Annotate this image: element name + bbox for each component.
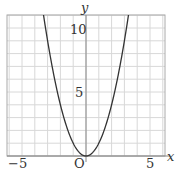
x-axis-label: x bbox=[167, 149, 175, 164]
parabola-chart: y x O −5 5 5 10 bbox=[0, 0, 177, 169]
y-tick-10: 10 bbox=[70, 22, 87, 37]
y-axis-label: y bbox=[80, 0, 89, 15]
origin-label: O bbox=[74, 156, 85, 169]
y-tick-5: 5 bbox=[75, 85, 83, 100]
x-tick-neg5: −5 bbox=[8, 156, 27, 169]
x-tick-5: 5 bbox=[146, 156, 154, 169]
